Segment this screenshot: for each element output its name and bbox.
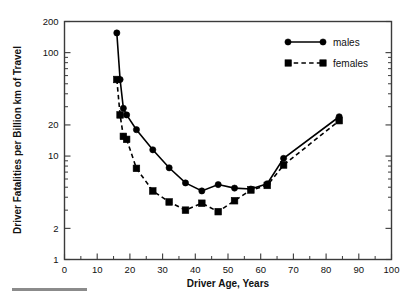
fatalities-vs-age-line-chart: 0102030405060708090100 121020100200 Driv… bbox=[0, 0, 417, 300]
data-point-females bbox=[264, 182, 271, 189]
data-point-males bbox=[231, 185, 237, 191]
chart-legend: males females bbox=[285, 37, 368, 69]
x-tick-label: 0 bbox=[62, 264, 67, 275]
x-tick-label: 20 bbox=[125, 264, 136, 275]
legend-marker-males-right bbox=[320, 39, 326, 45]
legend-marker-females-right bbox=[320, 60, 326, 66]
x-tick-label: 10 bbox=[92, 264, 103, 275]
data-point-males bbox=[199, 188, 205, 194]
legend-marker-males-left bbox=[285, 39, 291, 45]
x-tick-label: 100 bbox=[384, 264, 400, 275]
x-tick-label: 60 bbox=[255, 264, 266, 275]
data-point-females bbox=[166, 199, 173, 206]
legend-label-females: females bbox=[333, 58, 368, 69]
y-axis-tick-labels: 121020100200 bbox=[43, 16, 59, 265]
data-point-females bbox=[215, 208, 222, 215]
bottom-rule-decoration bbox=[12, 288, 87, 291]
y-tick-label: 2 bbox=[53, 223, 58, 234]
y-tick-label: 20 bbox=[48, 119, 59, 130]
x-tick-label: 50 bbox=[223, 264, 234, 275]
x-tick-label: 90 bbox=[354, 264, 365, 275]
data-point-females bbox=[114, 76, 121, 83]
series-line-males bbox=[117, 33, 339, 191]
x-axis-tick-labels: 0102030405060708090100 bbox=[62, 264, 400, 275]
data-point-females bbox=[231, 197, 238, 204]
data-point-females bbox=[182, 207, 189, 214]
data-point-males bbox=[124, 112, 130, 118]
x-tick-label: 70 bbox=[288, 264, 299, 275]
data-point-males bbox=[114, 30, 120, 36]
legend-marker-females-left bbox=[285, 60, 291, 66]
data-point-females bbox=[199, 200, 206, 207]
y-tick-label: 10 bbox=[48, 150, 59, 161]
data-point-females bbox=[123, 136, 130, 143]
data-point-males bbox=[150, 147, 156, 153]
data-point-males bbox=[133, 127, 139, 133]
series-males bbox=[114, 30, 343, 194]
data-point-males bbox=[120, 105, 126, 111]
series-females bbox=[114, 76, 343, 215]
data-point-females bbox=[117, 112, 124, 119]
chart-figure: 0102030405060708090100 121020100200 Driv… bbox=[0, 0, 417, 300]
data-point-females bbox=[133, 165, 140, 172]
x-tick-label: 30 bbox=[157, 264, 168, 275]
data-point-males bbox=[215, 181, 221, 187]
data-point-males bbox=[182, 180, 188, 186]
x-axis-ticks bbox=[65, 254, 392, 260]
data-series-layer bbox=[114, 30, 343, 215]
y-axis-title: Driver Fatalities per Billion km of Trav… bbox=[12, 46, 23, 234]
data-point-females bbox=[280, 162, 287, 169]
data-point-females bbox=[149, 188, 156, 195]
legend-label-males: males bbox=[333, 37, 360, 48]
y-tick-label: 100 bbox=[43, 47, 59, 58]
data-point-males bbox=[280, 155, 286, 161]
data-point-females bbox=[248, 187, 255, 194]
x-tick-label: 40 bbox=[190, 264, 201, 275]
x-axis-title: Driver Age, Years bbox=[187, 278, 270, 289]
y-tick-label: 200 bbox=[43, 16, 59, 27]
x-tick-label: 80 bbox=[321, 264, 332, 275]
data-point-females bbox=[336, 117, 343, 124]
y-tick-label: 1 bbox=[53, 254, 58, 265]
data-point-males bbox=[166, 165, 172, 171]
